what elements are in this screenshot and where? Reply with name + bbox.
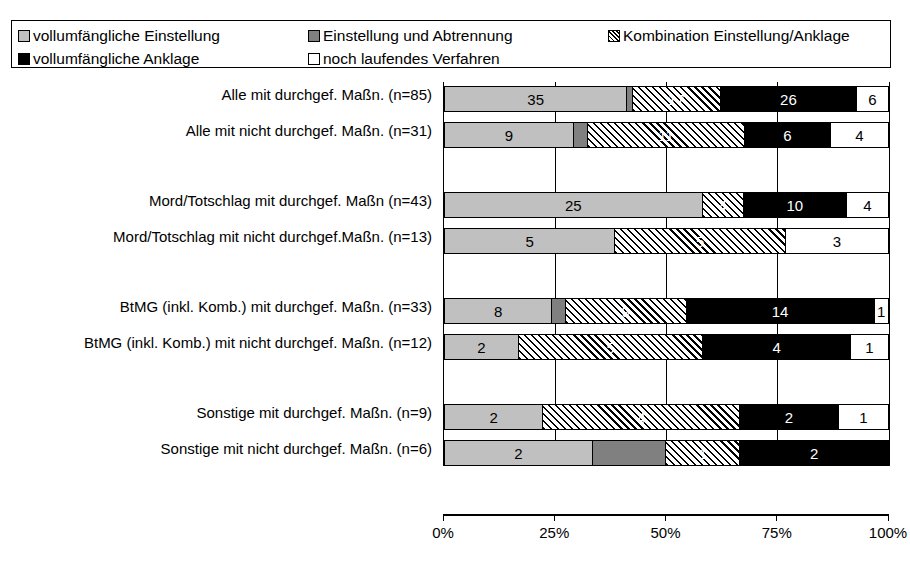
bar-segment: 4 xyxy=(703,193,744,217)
bar-segment: 4 xyxy=(703,335,851,359)
legend-item-noch-laufendes-verfahren: noch laufendes Verfahren xyxy=(308,47,608,70)
segment-value-label: 1 xyxy=(865,340,873,355)
bar-row: 254104 xyxy=(444,192,889,218)
segment-value-label: 3 xyxy=(833,234,841,249)
chart-legend: vollumfängliche Einstellung Einstellung … xyxy=(11,20,891,68)
bar-segment: 14 xyxy=(687,299,875,323)
segment-value-label: 2 xyxy=(785,410,793,425)
segment-value-label: 4 xyxy=(863,198,871,213)
bar-segment: 6 xyxy=(857,87,888,111)
bar-segment: 1 xyxy=(851,335,888,359)
x-axis-tick xyxy=(665,514,666,521)
bar-row: 3517266 xyxy=(444,86,889,112)
bar-segment: 35 xyxy=(445,87,627,111)
segment-value-label: 2 xyxy=(477,340,485,355)
segment-value-label: 4 xyxy=(718,198,726,213)
legend-row-1: vollumfängliche Einstellung Einstellung … xyxy=(18,24,884,47)
bar-segment: 2 xyxy=(740,405,838,429)
legend-label: vollumfängliche Anklage xyxy=(33,47,199,70)
bar-segment xyxy=(552,299,565,323)
x-axis-tick-label: 100% xyxy=(869,525,907,540)
legend-item-kombination-einstellung-anklage: Kombination Einstellung/Anklage xyxy=(608,24,850,47)
legend-label: Einstellung und Abtrennung xyxy=(323,24,513,47)
segment-value-label: 4 xyxy=(773,340,781,355)
x-axis-tick xyxy=(443,514,444,521)
segment-value-label: 2 xyxy=(810,446,818,461)
bar-row: 2541 xyxy=(444,334,889,360)
legend-swatch-light-gray-icon xyxy=(18,30,30,42)
legend-item-einstellung-und-abtrennung: Einstellung und Abtrennung xyxy=(308,24,608,47)
x-axis-tick-label: 25% xyxy=(539,525,569,540)
segment-value-label: 11 xyxy=(658,128,674,143)
segment-value-label: 1 xyxy=(859,410,867,425)
bar-segment: 8 xyxy=(445,299,552,323)
legend-swatch-black-icon xyxy=(18,53,30,65)
bar-segment: 25 xyxy=(445,193,703,217)
bar-segment xyxy=(574,123,588,147)
segment-value-label: 5 xyxy=(606,340,614,355)
segment-value-label: 10 xyxy=(786,198,803,213)
legend-item-vollumfaengliche-anklage: vollumfängliche Anklage xyxy=(18,47,308,70)
segment-value-label: 2 xyxy=(514,446,522,461)
bar-segment: 1 xyxy=(666,441,740,465)
segment-value-label: 6 xyxy=(783,128,791,143)
bar-segment: 5 xyxy=(615,229,785,253)
bar-segment: 11 xyxy=(588,123,745,147)
legend-swatch-dark-gray-icon xyxy=(308,30,320,42)
legend-swatch-hatch-icon xyxy=(608,30,620,42)
x-axis-tick-label: 75% xyxy=(762,525,792,540)
segment-value-label: 5 xyxy=(696,234,704,249)
category-axis-labels: Alle mit durchgef. Maßn. (n=85)Alle mit … xyxy=(0,78,438,510)
bar-segment: 4 xyxy=(831,123,888,147)
legend-label: vollumfängliche Einstellung xyxy=(33,24,220,47)
bar-segment: 17 xyxy=(633,87,722,111)
bar-row: 553 xyxy=(444,228,889,254)
x-axis-tick-label: 50% xyxy=(650,525,680,540)
segment-value-label: 1 xyxy=(877,304,885,319)
x-axis-tick xyxy=(554,514,555,521)
bar-segment: 3 xyxy=(786,229,888,253)
segment-value-label: 14 xyxy=(772,304,789,319)
segment-value-label: 9 xyxy=(505,128,513,143)
segment-value-label: 5 xyxy=(526,234,534,249)
segment-value-label: 9 xyxy=(622,304,630,319)
bar-row: 91164 xyxy=(444,122,889,148)
bar-segment: 5 xyxy=(519,335,704,359)
bar-segment: 1 xyxy=(875,299,888,323)
x-axis-tick-label: 0% xyxy=(432,525,454,540)
segment-value-label: 4 xyxy=(855,128,863,143)
bar-segment: 2 xyxy=(445,335,519,359)
bar-row: 212 xyxy=(444,440,889,466)
bar-segment: 9 xyxy=(566,299,687,323)
legend-label: Kombination Einstellung/Anklage xyxy=(623,24,850,47)
segment-value-label: 6 xyxy=(868,92,876,107)
bar-segment: 5 xyxy=(445,229,615,253)
legend-item-vollumfaengliche-einstellung: vollumfängliche Einstellung xyxy=(18,24,308,47)
bar-segment: 6 xyxy=(745,123,831,147)
bar-segment: 4 xyxy=(543,405,740,429)
stacked-bar-chart: Alle mit durchgef. Maßn. (n=85)Alle mit … xyxy=(0,78,910,548)
segment-value-label: 26 xyxy=(780,92,797,107)
segment-value-label: 2 xyxy=(490,410,498,425)
legend-swatch-white-icon xyxy=(308,53,320,65)
legend-label: noch laufendes Verfahren xyxy=(323,47,500,70)
bar-segment: 10 xyxy=(744,193,847,217)
bar-segment: 9 xyxy=(445,123,574,147)
bar-row: 2421 xyxy=(444,404,889,430)
x-axis-tick xyxy=(776,514,777,521)
bar-segment: 2 xyxy=(740,441,888,465)
legend-row-2: vollumfängliche Anklage noch laufendes V… xyxy=(18,47,884,70)
bar-segment: 4 xyxy=(847,193,888,217)
bar-segment xyxy=(593,441,667,465)
bar-segment: 1 xyxy=(839,405,888,429)
segment-value-label: 8 xyxy=(494,304,502,319)
bar-segment: 2 xyxy=(445,441,593,465)
bar-segment: 2 xyxy=(445,405,543,429)
segment-value-label: 17 xyxy=(668,92,685,107)
bar-row: 89141 xyxy=(444,298,889,324)
x-axis-tick xyxy=(888,514,889,521)
bar-segment: 26 xyxy=(721,87,857,111)
segment-value-label: 35 xyxy=(527,92,544,107)
segment-value-label: 1 xyxy=(699,446,707,461)
plot-area: 3517266911642541045538914125412421212 xyxy=(443,82,888,466)
